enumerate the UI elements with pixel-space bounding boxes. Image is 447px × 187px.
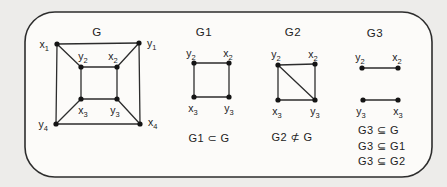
graph-G1-vertex-y3-dot [226,94,231,99]
figure-canvas: Gx1y1y2x2x3y3y4x4G1y2x2x3y3G1 ⊂ GG2y2x2x… [0,0,447,187]
graph-G2-caption-0: G2 ⊄ G [272,131,313,143]
graph-G-vertex-y4-dot [53,121,58,126]
graph-G-title: G [92,26,101,38]
graph-G1-title: G1 [196,26,212,38]
graph-G2-vertex-y3-dot [312,97,317,102]
graph-subgraph-diagram: Gx1y1y2x2x3y3y4x4G1y2x2x3y3G1 ⊂ GG2y2x2x… [0,0,447,187]
graph-G2-vertex-x3-dot [275,97,280,102]
graph-G-vertex-x4-dot [137,121,142,126]
graph-G1-caption-0: G1 ⊂ G [189,132,230,144]
graph-G3-vertex-y3-dot [360,97,365,102]
graph-G-vertex-x3-dot [78,96,83,101]
graph-G3-caption-0: G3 ⊆ G [358,124,399,136]
graph-G2-vertex-y2-dot [275,62,280,67]
graph-G-vertex-y2-dot [78,64,83,69]
graph-G2-title: G2 [285,26,301,38]
graph-G3-caption-1: G3 ⊆ G1 [358,140,405,152]
graph-G-vertex-y3-dot [114,96,119,101]
graph-G3-caption-2: G3 ⊆ G2 [358,155,405,167]
graph-G3-vertex-x2-dot [395,65,400,70]
graph-G3-vertex-x3-dot [395,97,400,102]
graph-G3-vertex-y2-dot [359,65,364,70]
graph-G3-title: G3 [367,27,383,39]
graph-G-vertex-x2-dot [114,64,119,69]
graph-G1-vertex-x3-dot [191,94,196,99]
graph-G-vertex-y1-dot [136,40,141,45]
graph-G-vertex-x1-dot [54,41,59,46]
